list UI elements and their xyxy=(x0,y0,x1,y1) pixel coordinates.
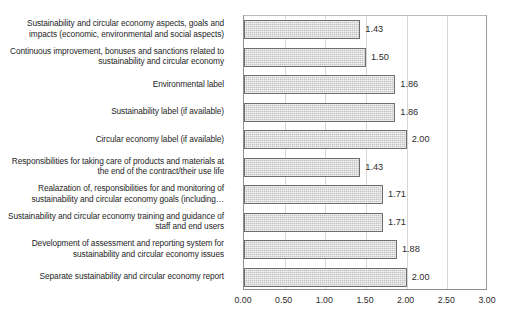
bar xyxy=(244,268,407,287)
bar-value-label: 1.71 xyxy=(383,213,406,232)
category-label-cell: Separate sustainability and circular eco… xyxy=(0,263,224,291)
category-label-cell: Realazation of, responsibilities for and… xyxy=(0,180,224,208)
bar xyxy=(244,20,360,39)
bar xyxy=(244,240,397,259)
bar-row: 2.00 xyxy=(244,268,488,287)
x-axis: 0.000.501.001.502.002.503.00 xyxy=(243,292,487,310)
bar-value-label: 1.86 xyxy=(395,75,418,94)
bar-value-label: 1.43 xyxy=(360,158,383,177)
bar-value-label: 2.00 xyxy=(407,130,430,149)
bar-row: 1.88 xyxy=(244,240,488,259)
category-label: Sustainability and circular economy trai… xyxy=(0,211,224,232)
category-label: Responsibilities for taking care of prod… xyxy=(0,156,224,177)
bar xyxy=(244,213,383,232)
bar-row: 1.43 xyxy=(244,158,488,177)
category-label-cell: Responsibilities for taking care of prod… xyxy=(0,153,224,181)
category-label: Environmental label xyxy=(153,79,224,89)
bar-value-label: 1.86 xyxy=(395,103,418,122)
x-axis-tick-label: 1.00 xyxy=(316,295,333,305)
bar-row: 1.71 xyxy=(244,185,488,204)
x-axis-tick-label: 2.50 xyxy=(438,295,455,305)
bar xyxy=(244,75,395,94)
bar-value-label: 1.43 xyxy=(360,20,383,39)
bar xyxy=(244,158,360,177)
category-label: Realazation of, responsibilities for and… xyxy=(0,183,224,204)
category-label-column: Sustainability and circular economy aspe… xyxy=(0,15,228,290)
category-label: Circular economy label (if available) xyxy=(96,134,224,144)
category-label: Development of assessment and reporting … xyxy=(0,238,224,259)
bar xyxy=(244,130,407,149)
category-label-cell: Circular economy label (if available) xyxy=(0,125,224,153)
x-axis-tick-label: 3.00 xyxy=(478,295,495,305)
plot-area: 1.431.501.861.862.001.431.711.711.882.00 xyxy=(243,15,487,290)
x-axis-tick-label: 1.50 xyxy=(356,295,373,305)
bar xyxy=(244,48,366,67)
bar-row: 1.50 xyxy=(244,48,488,67)
category-label: Separate sustainability and circular eco… xyxy=(40,271,224,281)
category-label-cell: Sustainability and circular economy aspe… xyxy=(0,15,224,43)
bar-row: 2.00 xyxy=(244,130,488,149)
bar-row: 1.71 xyxy=(244,213,488,232)
bar-value-label: 1.71 xyxy=(383,185,406,204)
bar-value-label: 2.00 xyxy=(407,268,430,287)
bar-value-label: 1.88 xyxy=(397,240,420,259)
category-label-cell: Sustainability label (if available) xyxy=(0,98,224,126)
x-axis-tick-label: 0.50 xyxy=(275,295,292,305)
category-label: Continuous improvement, bonuses and sanc… xyxy=(0,46,224,67)
category-label: Sustainability label (if available) xyxy=(111,106,224,116)
x-axis-tick-label: 0.00 xyxy=(234,295,251,305)
category-label-cell: Sustainability and circular economy trai… xyxy=(0,208,224,236)
category-label: Sustainability and circular economy aspe… xyxy=(0,18,224,39)
category-label-cell: Continuous improvement, bonuses and sanc… xyxy=(0,43,224,71)
bar-row: 1.86 xyxy=(244,75,488,94)
bar xyxy=(244,185,383,204)
bar-chart: Sustainability and circular economy aspe… xyxy=(0,0,511,329)
category-label-cell: Development of assessment and reporting … xyxy=(0,235,224,263)
bar-row: 1.43 xyxy=(244,20,488,39)
x-axis-tick-label: 2.00 xyxy=(397,295,414,305)
bar-row: 1.86 xyxy=(244,103,488,122)
bar-value-label: 1.50 xyxy=(366,48,389,67)
category-label-cell: Environmental label xyxy=(0,70,224,98)
bar xyxy=(244,103,395,122)
